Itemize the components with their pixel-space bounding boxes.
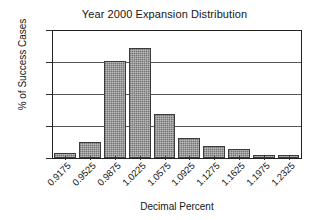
- bar-cell: [78, 31, 103, 158]
- bar-cell: [53, 31, 78, 158]
- x-tick-label-4: 1.0575: [144, 160, 172, 188]
- bar-cell: [251, 31, 276, 158]
- chart-title: Year 2000 Expansion Distribution: [0, 8, 329, 20]
- y-axis-title: % of Success Cases: [17, 0, 28, 130]
- x-tick-label-7: 1.1625: [219, 160, 247, 188]
- bar-cell: [227, 31, 252, 158]
- x-tick-label-9: 1.2325: [268, 160, 296, 188]
- x-tick-label-1: 0.9525: [70, 160, 98, 188]
- bar-cell: [103, 31, 128, 158]
- bar-4: [154, 114, 176, 158]
- bar-cell: [202, 31, 227, 158]
- x-tick-label-3: 1.0225: [120, 160, 148, 188]
- bar-series: [53, 31, 301, 158]
- x-axis-title: Decimal Percent: [52, 201, 302, 212]
- x-tick-label-0: 0.9175: [45, 160, 73, 188]
- bar-cell: [152, 31, 177, 158]
- x-tick-label-5: 1.0925: [169, 160, 197, 188]
- x-tick-label-8: 1.1975: [244, 160, 272, 188]
- bar-cell: [276, 31, 301, 158]
- x-axis-tick-labels: 0.9175 0.9525 0.9875 1.0225 1.0575 1.092…: [53, 160, 301, 200]
- bar-2: [104, 61, 126, 158]
- x-tick-label-2: 0.9875: [95, 160, 123, 188]
- x-tick-mark: [189, 156, 190, 160]
- x-tick-mark: [65, 156, 66, 160]
- bar-3: [129, 48, 151, 158]
- chart-container: Year 2000 Expansion Distribution % of Su…: [0, 0, 329, 220]
- bar-cell: [127, 31, 152, 158]
- bar-cell: [177, 31, 202, 158]
- x-tick-label-6: 1.1275: [194, 160, 222, 188]
